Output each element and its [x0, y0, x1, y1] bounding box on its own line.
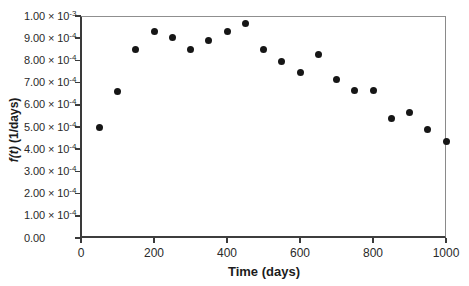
x-axis-title: Time (days) [204, 264, 324, 279]
data-point [224, 28, 231, 35]
data-point [242, 20, 249, 27]
data-point [96, 124, 103, 131]
y-tick-label: 8.00 × 10-4 [24, 54, 76, 67]
data-point [424, 126, 431, 133]
y-tick-label: 2.00 × 10-4 [24, 187, 76, 200]
x-tick-label: 600 [278, 246, 322, 260]
data-point [370, 87, 377, 94]
y-tick-label: 1.00 × 10-4 [24, 209, 76, 222]
x-tick-mark [226, 238, 228, 243]
data-point [151, 28, 158, 35]
y-axis-title-units: (1/days) [7, 98, 21, 147]
y-tick-label: 0.00 [24, 232, 45, 245]
data-point [297, 69, 304, 76]
x-tick-label: 200 [132, 246, 176, 260]
y-tick-label: 7.00 × 10-4 [24, 76, 76, 89]
x-tick-mark [299, 238, 301, 243]
y-axis-title-function: f(t) [7, 146, 21, 162]
x-tick-mark [153, 238, 155, 243]
y-axis-title: f(t) (1/days) [7, 79, 21, 181]
scatter-figure: f(t) (1/days) Time (days) 1.00 × 10-39.0… [0, 0, 469, 286]
data-point [132, 46, 139, 53]
data-point [260, 46, 267, 53]
y-tick-label: 1.00 × 10-3 [24, 10, 76, 23]
data-point [388, 115, 395, 122]
x-tick-mark [372, 238, 374, 243]
data-point [443, 138, 450, 145]
data-point [187, 46, 194, 53]
y-tick-label: 5.00 × 10-4 [24, 121, 76, 134]
y-tick-label: 6.00 × 10-4 [24, 98, 76, 111]
data-point [114, 88, 121, 95]
y-tick-label: 9.00 × 10-4 [24, 32, 76, 45]
x-tick-label: 800 [351, 246, 395, 260]
data-point [406, 109, 413, 116]
y-tick-label: 3.00 × 10-4 [24, 165, 76, 178]
data-point [169, 34, 176, 41]
y-tick-label: 4.00 × 10-4 [24, 143, 76, 156]
x-tick-label: 0 [59, 246, 103, 260]
x-tick-mark [445, 238, 447, 243]
x-tick-label: 1000 [424, 246, 468, 260]
data-point [333, 76, 340, 83]
x-tick-label: 400 [205, 246, 249, 260]
x-tick-mark [80, 238, 82, 243]
